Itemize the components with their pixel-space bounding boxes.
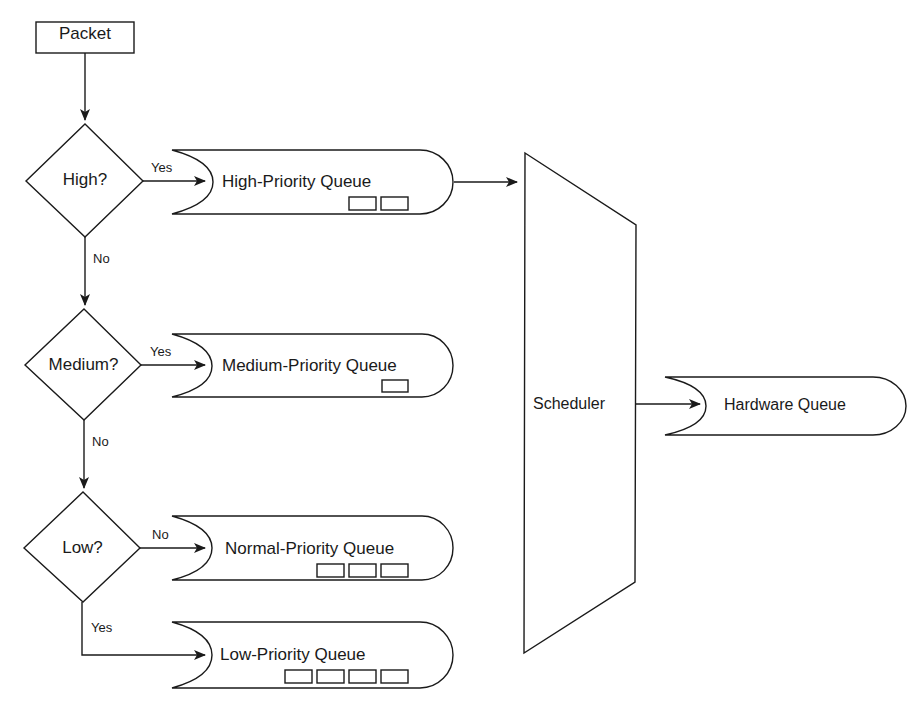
low-right-no-label: No (152, 527, 169, 542)
high-yes-label: Yes (151, 160, 172, 175)
medium-priority-queue-label: Medium-Priority Queue (222, 356, 397, 376)
medium-decision-label: Medium? (25, 355, 142, 375)
low-decision-label: Low? (24, 538, 141, 558)
high-priority-queue-label: High-Priority Queue (222, 172, 371, 192)
hardware-queue-label: Hardware Queue (724, 396, 846, 414)
high-no-label: No (93, 251, 110, 266)
medium-yes-label: Yes (150, 344, 171, 359)
normal-priority-queue-label: Normal-Priority Queue (225, 539, 394, 559)
low-priority-queue-label: Low-Priority Queue (220, 645, 366, 665)
medium-no-label: No (92, 434, 109, 449)
high-decision-label: High? (26, 170, 144, 190)
scheduler-label: Scheduler (533, 395, 605, 413)
low-down-yes-label: Yes (91, 620, 112, 635)
packet-label: Packet (36, 24, 134, 44)
